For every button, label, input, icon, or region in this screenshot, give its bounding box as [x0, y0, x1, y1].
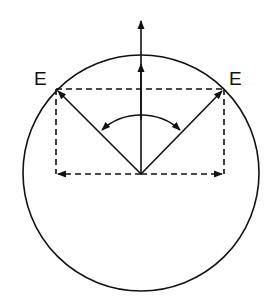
- label-left-E: E: [34, 68, 47, 89]
- left-vector-E: [58, 91, 141, 174]
- angle-arc: [102, 115, 141, 130]
- vector-diagram: E E: [0, 0, 275, 303]
- label-right-E: E: [229, 68, 242, 89]
- right-vector-E: [141, 91, 222, 174]
- diagonal-vectors: [58, 91, 222, 174]
- angle-arc-right: [141, 115, 180, 130]
- dashed-component-rectangle: [56, 89, 224, 174]
